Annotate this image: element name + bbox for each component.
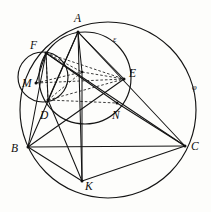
curve-label-epsilon: ε (113, 35, 116, 44)
geometry-canvas (0, 0, 211, 212)
point-label-E: E (129, 68, 136, 80)
solid-segment-layer (28, 32, 185, 181)
segment-B-C (28, 146, 185, 147)
vertex-dot-B (27, 146, 30, 149)
point-label-N: N (112, 110, 120, 122)
segment-C-F (46, 53, 185, 146)
geometry-figure: φεAFMDENBCK (0, 0, 211, 212)
segment-A-E (78, 32, 124, 79)
point-label-C: C (191, 141, 199, 153)
point-label-K: K (85, 181, 93, 193)
point-label-A: A (74, 13, 81, 25)
curve-label-phi: φ (192, 83, 197, 92)
vertex-dot-E (123, 78, 126, 81)
vertex-dot-M (35, 82, 38, 85)
point-label-F: F (30, 40, 37, 52)
vertex-dot-C (184, 145, 187, 148)
vertex-dot-K (81, 180, 84, 183)
vertex-dot-F (45, 52, 48, 55)
segment-C-K (82, 146, 185, 181)
vertex-dot-A (77, 31, 80, 34)
segment-B-K (28, 147, 82, 181)
vertex-dot-D (47, 99, 50, 102)
point-label-M: M (22, 78, 32, 90)
vertex-dot-N (116, 102, 119, 105)
point-label-D: D (40, 110, 48, 122)
segment-F-P-dashed (46, 53, 82, 72)
vertex-dot-P (81, 71, 84, 74)
point-label-B: B (11, 143, 18, 155)
